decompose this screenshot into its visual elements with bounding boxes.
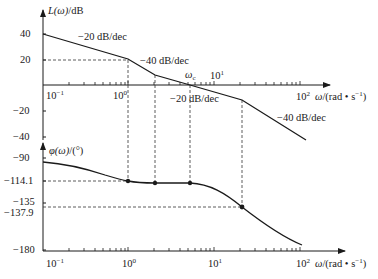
phase-ytick-neg137.9: −137.9 [4,208,34,219]
phase-ytick-neg114.1: −114.1 [4,176,33,187]
phase-x-ticks [69,247,300,251]
vertical-reference-lines [128,60,242,207]
phase-x-axis-label: ω/(rad • s−1) [315,258,366,270]
phase-curve [43,162,302,245]
magnitude-ytick-40: 40 [20,29,31,40]
bode-plot-canvas [0,0,378,279]
phase-xtick-100: 102 [296,258,310,270]
magnitude-xtick-10: 101 [210,70,224,82]
phase-ytick-neg135: −135 [13,197,35,208]
phase-y-axis-label: φ(ω)/(°) [49,146,83,157]
magnitude-x-axis-label: ω/(rad • s−1) [315,91,366,103]
phase-plot [43,143,345,251]
phase-xtick-0.1: 10−1 [46,258,64,270]
magnitude-curve [43,34,306,140]
slope-annotation-3: −20 dB/dec [170,94,219,105]
magnitude-xtick-1: 100 [113,90,127,102]
phase-ytick-neg180: −180 [13,245,35,256]
magnitude-xtick-0.1: 10−1 [46,90,64,102]
magnitude-y-axis-label: L(ω)/dB [48,6,83,17]
phase-xtick-10: 101 [208,258,222,270]
magnitude-ytick-neg40: −40 [13,132,29,143]
phase-ytick-neg90: −90 [13,153,29,164]
crossover-frequency-label: ωc [185,70,196,82]
phase-xtick-1: 100 [122,258,136,270]
slope-annotation-1: −20 dB/dec [78,32,127,43]
magnitude-xtick-100: 102 [296,91,310,103]
slope-annotation-2: −40 dB/dec [140,56,189,67]
phase-reference-lines [43,181,242,207]
slope-annotation-4: −40 dB/dec [277,113,326,124]
magnitude-ytick-20: 20 [20,55,31,66]
magnitude-ytick-neg20: −20 [13,106,29,117]
